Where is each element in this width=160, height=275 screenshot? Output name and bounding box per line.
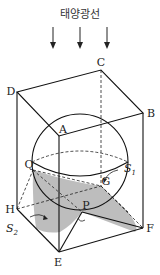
label-h: H [5, 203, 15, 216]
label-a: A [58, 123, 68, 136]
sunlight-label: 태양광선 [60, 8, 100, 21]
label-c: C [97, 56, 105, 69]
cube-sphere-diagram: 태양광선 C D B A Q G H P F E S1 S2 [0, 0, 160, 275]
label-b: B [147, 107, 155, 120]
sun-ray-arrows [50, 27, 110, 49]
label-e: E [54, 256, 62, 269]
label-g: G [102, 175, 111, 188]
label-d: D [7, 85, 16, 98]
label-q: Q [24, 158, 33, 171]
label-s1: S1 [124, 162, 136, 177]
label-f: F [146, 222, 154, 235]
right-angle-mark [78, 218, 85, 221]
label-s2: S2 [6, 222, 19, 237]
label-p: P [82, 199, 90, 212]
sphere-equator [32, 162, 128, 176]
